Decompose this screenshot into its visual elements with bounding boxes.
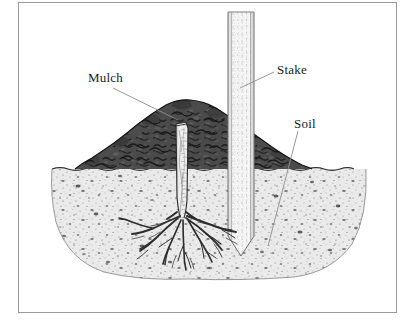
figure-page: Mulch Stake Soil (0, 0, 410, 330)
mulch-mound (75, 99, 312, 170)
tree-planting-cross-section-illustration (0, 0, 410, 330)
label-stake: Stake (277, 62, 307, 78)
label-soil: Soil (294, 116, 316, 132)
support-stake (228, 12, 254, 256)
label-mulch: Mulch (88, 70, 123, 86)
tree-trunk (176, 122, 188, 222)
